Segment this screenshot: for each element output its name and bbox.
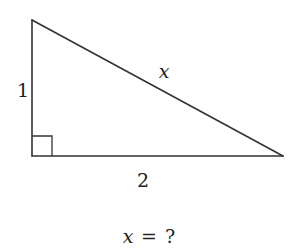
- right-angle-marker: [32, 136, 52, 156]
- right-triangle-diagram: 1 2 x x = ?: [0, 0, 296, 251]
- hypotenuse-label: x: [159, 60, 170, 82]
- vertical-leg-label: 1: [17, 79, 29, 101]
- question-equals: =: [141, 225, 157, 247]
- question-variable: x: [123, 225, 134, 247]
- horizontal-leg-label: 2: [137, 169, 149, 191]
- question-unknown: ?: [165, 225, 175, 247]
- hypotenuse: [32, 20, 283, 156]
